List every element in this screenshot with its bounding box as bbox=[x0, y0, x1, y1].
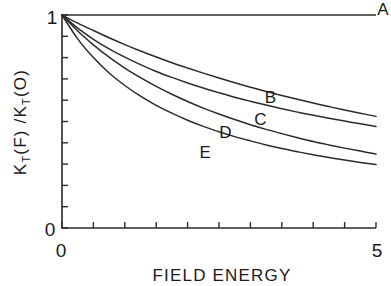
tick-labels: 1 0 0 5 bbox=[45, 7, 383, 261]
axes-group bbox=[62, 15, 376, 228]
x-axis-ticks bbox=[62, 222, 376, 228]
y-axis-title-p2: (O) bbox=[11, 69, 30, 97]
y-axis-title-k1: K bbox=[11, 163, 30, 176]
x-axis-title: FIELD ENERGY bbox=[152, 266, 291, 285]
x-tick-label-min: 0 bbox=[56, 240, 67, 261]
y-axis-ticks bbox=[62, 15, 68, 228]
curve-label-d: D bbox=[219, 123, 231, 142]
axis-lines bbox=[62, 15, 376, 228]
curve-c bbox=[62, 15, 376, 126]
y-axis-title-sub1: T bbox=[20, 155, 32, 163]
y-axis-title-sub2: T bbox=[20, 97, 32, 105]
figure: 1 0 0 5 ABCDE FIELD ENERGY KT(F) /KT(O) bbox=[0, 0, 391, 286]
y-axis-title-k2: K bbox=[11, 105, 30, 118]
x-tick-label-max: 5 bbox=[372, 240, 383, 261]
svg-text:KT(F) /KT(O): KT(F) /KT(O) bbox=[11, 69, 32, 175]
curves-group bbox=[62, 15, 376, 165]
line-chart: 1 0 0 5 ABCDE FIELD ENERGY KT(F) /KT(O) bbox=[0, 0, 391, 286]
curve-label-b: B bbox=[265, 88, 276, 107]
y-tick-label-max: 1 bbox=[47, 7, 58, 28]
y-axis-title-p1: (F) / bbox=[11, 118, 30, 155]
curve-label-c: C bbox=[254, 110, 266, 129]
y-tick-label-min: 0 bbox=[45, 219, 56, 240]
curve-b bbox=[62, 15, 376, 116]
curve-label-a: A bbox=[377, 0, 389, 19]
curve-label-e: E bbox=[200, 143, 211, 162]
y-axis-title: KT(F) /KT(O) bbox=[11, 69, 32, 175]
